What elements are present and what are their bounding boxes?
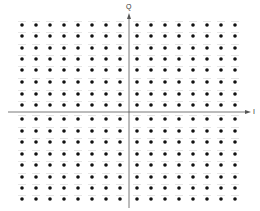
constellation-point [219, 34, 223, 38]
constellation-point [191, 23, 195, 27]
constellation-point [76, 140, 80, 144]
constellation-point [219, 129, 223, 133]
constellation-point [34, 103, 38, 107]
constellation-point [163, 129, 167, 133]
constellation-point [34, 129, 38, 133]
constellation-point [104, 117, 108, 121]
constellation-point [62, 57, 66, 61]
constellation-point [219, 57, 223, 61]
constellation-point [163, 163, 167, 167]
q-axis-label: Q [126, 3, 131, 10]
constellation-point [62, 46, 66, 50]
constellation-point [177, 117, 181, 121]
constellation-point [149, 175, 153, 179]
constellation-point [205, 175, 209, 179]
constellation-point [104, 197, 108, 201]
constellation-point [149, 80, 153, 84]
constellation-point [219, 68, 223, 72]
constellation-point [177, 197, 181, 201]
constellation-point [62, 140, 66, 144]
constellation-point [233, 152, 237, 156]
constellation-point [104, 140, 108, 144]
constellation-point [177, 163, 181, 167]
constellation-point [219, 186, 223, 190]
constellation-point [90, 163, 94, 167]
constellation-point [62, 80, 66, 84]
constellation-point [20, 23, 24, 27]
constellation-point [90, 186, 94, 190]
constellation-point [76, 117, 80, 121]
constellation-point [62, 92, 66, 96]
constellation-point [163, 68, 167, 72]
constellation-point [90, 80, 94, 84]
constellation-point [191, 92, 195, 96]
constellation-point [205, 140, 209, 144]
constellation-point [177, 46, 181, 50]
constellation-point [104, 129, 108, 133]
constellation-point [118, 140, 122, 144]
constellation-point [163, 23, 167, 27]
constellation-point [62, 103, 66, 107]
constellation-point [205, 34, 209, 38]
constellation-point [90, 57, 94, 61]
constellation-point [191, 175, 195, 179]
constellation-point [149, 46, 153, 50]
constellation-point [135, 57, 139, 61]
constellation-point [191, 46, 195, 50]
constellation-diagram [0, 0, 260, 211]
constellation-point [90, 140, 94, 144]
constellation-point [177, 57, 181, 61]
constellation-point [76, 57, 80, 61]
constellation-point [163, 34, 167, 38]
constellation-point [118, 186, 122, 190]
constellation-point [205, 46, 209, 50]
constellation-point [62, 23, 66, 27]
constellation-point [90, 129, 94, 133]
constellation-point [233, 175, 237, 179]
constellation-point [48, 175, 52, 179]
constellation-point [20, 68, 24, 72]
constellation-point [233, 197, 237, 201]
constellation-point [135, 34, 139, 38]
constellation-point [135, 129, 139, 133]
constellation-point [163, 140, 167, 144]
i-axis-label: I [253, 108, 255, 115]
constellation-point [191, 57, 195, 61]
constellation-point [62, 197, 66, 201]
constellation-point [62, 152, 66, 156]
constellation-point [233, 23, 237, 27]
constellation-point [48, 152, 52, 156]
constellation-point [149, 197, 153, 201]
constellation-point [104, 68, 108, 72]
constellation-point [104, 103, 108, 107]
constellation-point [48, 197, 52, 201]
constellation-point [149, 140, 153, 144]
constellation-point [20, 46, 24, 50]
constellation-point [90, 34, 94, 38]
constellation-point [62, 34, 66, 38]
constellation-point [205, 68, 209, 72]
constellation-point [20, 117, 24, 121]
constellation-point [163, 117, 167, 121]
constellation-point [163, 46, 167, 50]
constellation-point [177, 186, 181, 190]
constellation-point [191, 103, 195, 107]
constellation-point [104, 80, 108, 84]
constellation-point [34, 117, 38, 121]
constellation-point [118, 57, 122, 61]
constellation-point [76, 23, 80, 27]
constellation-point [20, 175, 24, 179]
constellation-point [48, 92, 52, 96]
constellation-point [191, 129, 195, 133]
constellation-point [62, 129, 66, 133]
constellation-point [62, 117, 66, 121]
constellation-point [191, 80, 195, 84]
constellation-point [233, 129, 237, 133]
constellation-point [20, 57, 24, 61]
constellation-point [149, 68, 153, 72]
constellation-point [233, 46, 237, 50]
constellation-point [177, 80, 181, 84]
constellation-point [20, 129, 24, 133]
constellation-point [205, 129, 209, 133]
constellation-point [149, 152, 153, 156]
